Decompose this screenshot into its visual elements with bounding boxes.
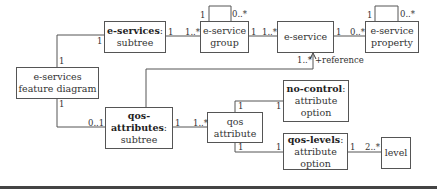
multiplicity-label: 1	[276, 102, 281, 111]
box-text: subtree	[117, 37, 154, 49]
box-eservice-group: e-service group	[200, 21, 249, 53]
box-text: attribute	[295, 95, 338, 107]
multiplicity-label: 1	[59, 57, 64, 66]
box-level: level	[381, 137, 411, 169]
box-text: attribute	[294, 146, 337, 158]
multiplicity-label: 1	[238, 143, 243, 152]
multiplicity-label: 1	[59, 100, 64, 109]
multiplicity-label: 0..*	[400, 10, 415, 19]
box-text: feature diagram	[19, 83, 97, 95]
box-text: property	[371, 37, 413, 49]
colon: :	[340, 134, 343, 145]
box-text: e-service	[284, 31, 327, 43]
box-bold-name: e-services	[107, 25, 160, 36]
box-text: subtree	[121, 134, 158, 146]
multiplicity-label: 1	[276, 143, 281, 152]
multiplicity-label: 1	[238, 102, 243, 111]
box-text: option	[300, 158, 331, 170]
multiplicity-label: 1	[367, 11, 372, 20]
multiplicity-label: 1..*	[185, 28, 200, 37]
box-title: qos-attributes:	[106, 110, 172, 134]
uml-diagram: e-services feature diagram e-services: s…	[0, 0, 437, 189]
box-qos-levels: qos-levels: attribute option	[283, 133, 348, 170]
box-bold-name: qos-attributes	[111, 110, 164, 133]
multiplicity-label: 1..*	[193, 119, 208, 128]
box-eservices-subtree: e-services: subtree	[104, 21, 166, 53]
box-qos-attributes-subtree: qos-attributes: subtree	[105, 107, 173, 149]
colon: :	[164, 122, 167, 133]
box-qos-attribute: qos attribute	[207, 112, 263, 143]
colon: :	[160, 25, 163, 36]
multiplicity-label: 1	[97, 37, 102, 46]
multiplicity-label: 0..1	[88, 119, 104, 128]
box-title: e-services:	[107, 25, 163, 37]
multiplicity-label: 1	[251, 28, 256, 37]
box-bold-name: no-control	[287, 83, 343, 94]
box-no-control: no-control: attribute option	[283, 80, 349, 122]
multiplicity-label: 1	[175, 119, 180, 128]
multiplicity-label: 0..*	[232, 10, 247, 19]
box-eservice-property: e-service property	[365, 21, 419, 53]
bottom-divider	[0, 186, 437, 189]
multiplicity-label: 1..*	[297, 56, 312, 65]
multiplicity-label: 1	[168, 28, 173, 37]
multiplicity-label: 1..*	[262, 28, 277, 37]
multiplicity-label: 1	[200, 11, 205, 20]
box-text: qos	[227, 116, 244, 128]
multiplicity-label: 1	[350, 143, 355, 152]
colon: :	[342, 83, 345, 94]
box-title: no-control:	[287, 83, 346, 95]
box-title: qos-levels:	[288, 134, 344, 146]
box-eservice: e-service	[277, 21, 334, 53]
box-text: e-services	[33, 71, 81, 83]
box-text: e-service	[370, 25, 413, 37]
role-label: +reference	[315, 56, 364, 65]
box-eservices-feature-diagram: e-services feature diagram	[16, 67, 99, 99]
box-text: attribute	[214, 128, 257, 140]
box-text: option	[301, 107, 332, 119]
multiplicity-label: 2..*	[365, 143, 380, 152]
box-bold-name: qos-levels	[288, 134, 340, 145]
multiplicity-label: 1	[336, 28, 341, 37]
box-text: group	[210, 37, 239, 49]
box-text: e-service	[203, 25, 246, 37]
multiplicity-label: 0..*	[350, 28, 365, 37]
box-text: level	[385, 147, 408, 159]
